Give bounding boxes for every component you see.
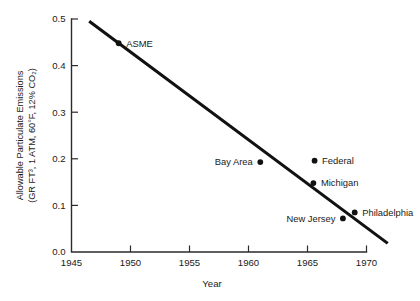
data-point-marker: [312, 158, 318, 164]
data-points: ASMEBay AreaFederalMichiganNew JerseyPhi…: [116, 38, 414, 224]
x-tick-label: 1945: [61, 257, 82, 268]
data-point-label: Federal: [322, 155, 354, 166]
y-tick-label: 0.3: [52, 107, 65, 118]
x-axis-ticks: 194519501955196019651970: [61, 246, 377, 269]
y-axis-title-line1: Allowable Particulate Emissions: [15, 70, 25, 200]
x-tick-label: 1970: [356, 257, 377, 268]
x-axis-title: Year: [202, 278, 222, 289]
data-point-label: ASME: [126, 38, 153, 49]
emissions-scatter-chart: Allowable Particulate Emissions (GR FT³,…: [0, 0, 420, 301]
x-tick-label: 1955: [179, 257, 200, 268]
data-point-label: New Jersey: [286, 213, 335, 224]
data-point-label: Bay Area: [215, 156, 254, 167]
y-tick-label: 0.2: [52, 153, 65, 164]
data-point-label: Michigan: [321, 177, 359, 188]
y-axis-title-line2: (GR FT³, 1 ATM, 60°F, 12% CO₂): [27, 68, 37, 203]
data-point-marker: [257, 159, 263, 165]
y-tick-label: 0.5: [52, 13, 65, 24]
data-point-marker: [352, 209, 358, 215]
y-tick-label: 0.0: [52, 246, 65, 257]
data-point-marker: [116, 40, 122, 46]
y-tick-label: 0.1: [52, 200, 65, 211]
y-axis-title: Allowable Particulate Emissions (GR FT³,…: [15, 68, 37, 203]
y-tick-label: 0.4: [52, 60, 66, 71]
x-tick-label: 1960: [238, 257, 259, 268]
data-point-marker: [311, 180, 317, 186]
x-tick-label: 1965: [297, 257, 318, 268]
data-point-marker: [340, 216, 346, 222]
data-point-label: Philadelphia: [362, 207, 414, 218]
trend-line: [89, 21, 388, 243]
x-tick-label: 1950: [120, 257, 141, 268]
y-axis-ticks: 0.00.10.20.30.40.5: [52, 13, 78, 257]
chart-container: Allowable Particulate Emissions (GR FT³,…: [0, 0, 420, 301]
